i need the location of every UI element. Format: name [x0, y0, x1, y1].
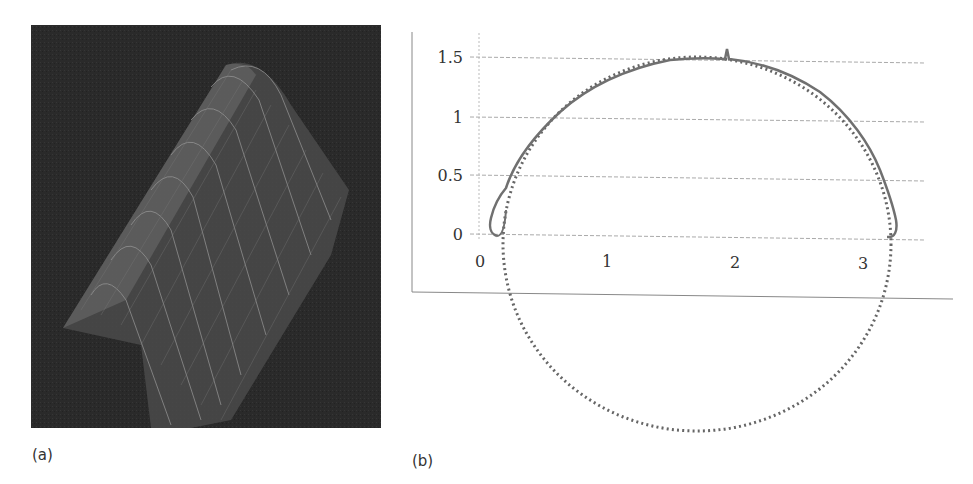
- x-tick-2: 2: [730, 253, 740, 272]
- fitted-circle-series: [503, 57, 891, 431]
- x-tick-1: 1: [602, 252, 612, 271]
- x-tick-0: 0: [475, 252, 485, 271]
- y-tick-0.5: 0.5: [438, 166, 463, 185]
- gridlines: [470, 57, 925, 240]
- outer-frame-bottom: [412, 292, 953, 299]
- y-tick-1: 1: [453, 108, 463, 127]
- panel-b-chart: 1.5 1 0.5 0 0 1 2 3: [0, 0, 973, 484]
- panel-b-label: (b): [412, 452, 433, 470]
- y-tick-1.5: 1.5: [438, 48, 463, 67]
- y-tick-0: 0: [453, 225, 463, 244]
- measured-profile-series: [490, 49, 896, 237]
- x-tick-3: 3: [858, 254, 868, 273]
